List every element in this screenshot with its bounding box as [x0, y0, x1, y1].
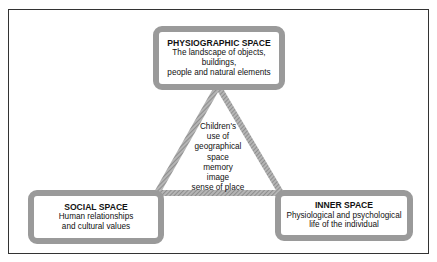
physiographic-space-title: PHYSIOGRAPHIC SPACE [167, 39, 270, 49]
physiographic-space-box: PHYSIOGRAPHIC SPACE The landscape of obj… [153, 26, 285, 90]
social-line: and cultural values [62, 222, 130, 232]
center-line: Children's [168, 122, 268, 132]
center-line: use of [168, 132, 268, 142]
inner-space-box: INNER SPACE Physiological and psychologi… [275, 190, 413, 241]
center-line: sense of place [168, 183, 268, 193]
center-line: space [168, 153, 268, 163]
center-line: memory [168, 163, 268, 173]
center-line: geographical [168, 142, 268, 152]
physiographic-line: buildings, [202, 58, 237, 68]
inner-space-title: INNER SPACE [315, 201, 373, 211]
inner-line: life of the individual [309, 220, 379, 230]
physiographic-line: people and natural elements [167, 68, 270, 78]
physiographic-line: The landscape of objects, [172, 48, 265, 58]
social-line: Human relationships [59, 212, 134, 222]
inner-line: Physiological and psychological [286, 211, 401, 221]
center-label: Children's use of geographical space mem… [168, 122, 268, 193]
social-space-box: SOCIAL SPACE Human relationships and cul… [28, 190, 164, 244]
center-line: image [168, 173, 268, 183]
social-space-title: SOCIAL SPACE [64, 203, 128, 213]
